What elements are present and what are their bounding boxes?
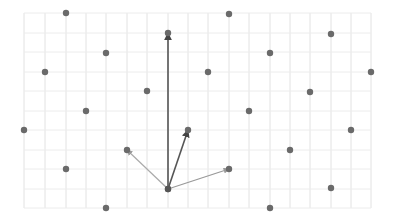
lattice-point <box>368 69 374 75</box>
lattice-point <box>83 108 89 114</box>
lattice-point <box>267 50 273 56</box>
origin-point <box>165 186 171 192</box>
vector-arrow <box>168 169 229 189</box>
lattice-point <box>267 205 273 211</box>
lattice-point <box>226 166 232 172</box>
lattice-point <box>165 30 171 36</box>
lattice-point <box>328 185 334 191</box>
lattice-point <box>307 89 313 95</box>
lattice-point <box>103 50 109 56</box>
lattice-point <box>103 205 109 211</box>
lattice-point <box>144 88 150 94</box>
lattice-point <box>205 69 211 75</box>
lattice-point <box>226 11 232 17</box>
lattice-point <box>42 69 48 75</box>
lattice-point <box>63 10 69 16</box>
lattice-diagram <box>0 0 393 218</box>
lattice-point <box>287 147 293 153</box>
lattice-point <box>246 108 252 114</box>
lattice-point <box>328 31 334 37</box>
lattice-point <box>348 127 354 133</box>
lattice-point <box>63 166 69 172</box>
lattice-point <box>21 127 27 133</box>
vector-arrow <box>168 130 188 189</box>
lattice-point <box>185 127 191 133</box>
lattice-point <box>124 147 130 153</box>
